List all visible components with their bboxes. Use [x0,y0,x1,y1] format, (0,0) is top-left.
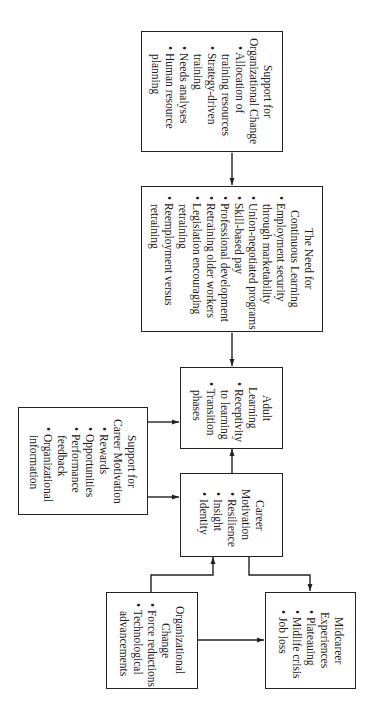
list-item: • Transitionphases [190,382,218,442]
text-line: Learning [246,374,260,442]
list-item: • Organizationalinformation [27,427,55,504]
text-line: • Transition [204,382,218,442]
text-line: Support for [125,419,139,504]
text-line: Continuous Learning [288,188,302,330]
text-line: advancements [117,603,131,687]
arrow-career-motivation-to-midcareer [249,557,310,591]
list-item: • Legislation encouragingretraining [176,196,204,330]
text-line: • Legislation encouraging [190,196,204,330]
list-item: • Receptivityto learning [218,382,246,442]
text-line: • Skill-based pay [232,196,246,330]
list-item: • Identity [197,492,211,547]
text-line: • Receptivity [232,382,246,442]
text-line: • Force reductions [145,603,159,687]
box-career-motivation: Career Motivation • Resilience • Insight… [180,473,283,557]
list-item: • Force reductions [145,603,159,687]
list-item: • Plateauing [304,610,318,679]
text-line: • Professional development [218,196,232,330]
text-line: phases [190,382,204,442]
box-title: Adult Learning [246,374,274,442]
list-item: • Retraining older workers [204,196,218,330]
box-support-career-motivation: Support for Career Motivation • Rewards … [18,407,148,515]
box-title: Organizational Change [159,595,187,687]
text-line: • Performance [69,427,83,504]
list-item: • Technologicaladvancements [117,603,145,687]
bullet-list: • Rewards • Opportunities • Performancef… [27,419,111,504]
text-line: to learning [218,382,232,442]
text-line: retraining [148,196,162,330]
text-line: training resources [219,46,233,144]
text-line: • Human resource [163,46,177,144]
list-item: • Professional development [218,196,232,330]
box-adult-learning: Adult Learning • Receptivityto learning … [180,367,283,449]
text-line: Organizational Change [247,38,261,144]
bullet-list: • Receptivityto learning • Transitionpha… [190,374,246,442]
list-item: • Reemployment versusretraining [148,196,176,330]
list-item: • Performancefeedback [55,427,83,504]
text-line: • Resilience [225,492,239,547]
bullet-list: • Plateauing • Midlife crisis • Job loss [276,602,318,679]
text-line: planning [149,46,163,144]
box-support-organizational-change: Support for Organizational Change • Allo… [141,31,283,152]
list-item: • Job loss [276,610,290,679]
bullet-list: • Force reductions • Technologicaladvanc… [117,595,159,687]
text-line: Midcareer [332,602,346,679]
text-line: • Allocation of [233,46,247,144]
box-title: Support for Organizational Change [247,38,275,144]
text-line: information [27,427,41,504]
text-line: • Employment security [274,196,288,330]
arrow-org-change-to-career-motivation [151,557,213,592]
box-midcareer-experiences: Midcareer Experiences • Plateauing • Mid… [265,592,356,689]
box-title: The Need for Continuous Learning [288,188,316,330]
list-item: • Opportunities [83,427,97,504]
list-item: • Needs analyses [177,46,191,144]
text-line: through marketability [260,196,274,330]
box-continuous-learning: The Need for Continuous Learning • Emplo… [141,186,323,332]
text-line: Career [253,484,267,547]
text-line: • Union-negotiated programs [246,196,260,330]
text-line: Change [159,595,173,687]
list-item: • Union-negotiated programs [246,196,260,330]
text-line: • Plateauing [304,610,318,679]
list-item: • Allocation oftraining resources [219,46,247,144]
text-line: Motivation [239,484,253,547]
text-line: Organizational [173,595,187,687]
text-line: • Strategy-driven [205,46,219,144]
text-line: • Technological [131,603,145,687]
text-line: • Insight [211,492,225,547]
text-line: retraining [176,196,190,330]
text-line: • Job loss [276,610,290,679]
text-line: • Retraining older workers [204,196,218,330]
text-line: • Opportunities [83,427,97,504]
text-line: feedback [55,427,69,504]
bullet-list: • Resilience • Insight • Identity [197,484,239,547]
text-line: The Need for [302,188,316,330]
text-line: • Needs analyses [177,46,191,144]
list-item: • Midlife crisis [290,610,304,679]
text-line: Support for [261,38,275,144]
box-title: Career Motivation [239,484,267,547]
text-line: • Identity [197,492,211,547]
text-line: • Reemployment versus [162,196,176,330]
list-item: • Insight [211,492,225,547]
text-line: • Organizational [41,427,55,504]
text-line: training [191,46,205,144]
text-line: Adult [260,374,274,442]
list-item: • Rewards [97,427,111,504]
bullet-list: • Employment securitythrough marketabili… [148,188,288,330]
box-title: Support for Career Motivation [111,419,139,504]
box-title: Midcareer Experiences [318,602,346,679]
list-item: • Resilience [225,492,239,547]
list-item: • Skill-based pay [232,196,246,330]
box-organizational-change: Organizational Change • Force reductions… [106,592,198,689]
list-item: • Strategy-driventraining [191,46,219,144]
bullet-list: • Allocation oftraining resources • Stra… [149,38,247,144]
list-item: • Employment securitythrough marketabili… [260,196,288,330]
text-line: Experiences [318,602,332,679]
text-line: • Midlife crisis [290,610,304,679]
list-item: • Human resourceplanning [149,46,177,144]
text-line: • Rewards [97,427,111,504]
text-line: Career Motivation [111,419,125,504]
